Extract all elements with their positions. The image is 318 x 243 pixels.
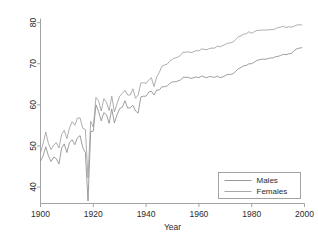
x-tick-label: 1900: [31, 209, 50, 219]
x-axis-title: Year: [164, 222, 181, 232]
x-tick-label: 1940: [137, 209, 156, 219]
chart-legend: MalesFemales: [219, 173, 301, 199]
x-tick-label: 1960: [189, 209, 208, 219]
line-chart-canvas: MalesFemales 405060708019001920194019601…: [0, 0, 318, 243]
x-tick-label: 1980: [242, 209, 261, 219]
y-tick-label: 40: [29, 182, 39, 192]
x-tick-label: 1920: [84, 209, 103, 219]
series-line-females: [41, 25, 302, 178]
legend-label-males: Males: [257, 176, 278, 185]
legend-label-females: Females: [257, 187, 288, 196]
chart-figure: MalesFemales 405060708019001920194019601…: [0, 0, 318, 243]
y-tick-label: 70: [29, 59, 39, 69]
y-tick-label: 80: [29, 18, 39, 28]
y-tick-label: 60: [29, 100, 39, 110]
y-tick-label: 50: [29, 141, 39, 151]
x-tick-label: 2000: [295, 209, 314, 219]
